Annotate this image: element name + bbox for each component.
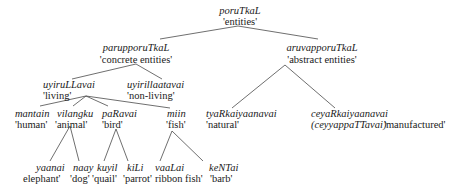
node-gloss: 'natural': [206, 119, 239, 130]
node-term: mantain: [15, 108, 49, 119]
node-manufactured: ceyaRkaiyaanavai (ceyyappaTTavai) 'manuf…: [311, 108, 446, 131]
node-fish: miin 'fish': [166, 108, 186, 130]
node-term: miin: [167, 108, 186, 119]
node-elephant: yaanai elephant': [23, 162, 65, 184]
node-term: kiLi: [127, 162, 143, 173]
edge-concrete-living: [72, 64, 136, 79]
node-gloss: 'non-living': [127, 90, 175, 101]
node-root: poruTkaL 'entities': [218, 5, 261, 27]
node-dog: naay 'dog': [70, 162, 94, 184]
edge-animal-dog: [70, 126, 79, 161]
node-term: vaaLai: [155, 162, 184, 173]
node-gloss: 'quail': [92, 173, 117, 184]
edge-abstract-natural: [232, 65, 285, 108]
node-gloss: 'entities': [223, 16, 257, 27]
edge-fish-barb: [172, 131, 203, 161]
node-term: parupporuTkaL: [102, 42, 170, 53]
node-term: poruTkaL: [218, 5, 261, 16]
node-gloss: ribbon fish': [155, 173, 203, 184]
node-ribbonfish: vaaLai ribbon fish': [155, 162, 203, 184]
edge-bird-quail: [104, 129, 116, 161]
node-term: naay: [73, 162, 94, 173]
node-term: kuyil: [97, 162, 117, 173]
node-quail: kuyil 'quail': [92, 162, 117, 184]
node-bird: paRavai 'bird': [101, 108, 137, 130]
edge-bird-parrot: [116, 129, 128, 161]
node-gloss: 'manufactured': [384, 119, 446, 130]
edge-root-concrete: [160, 26, 238, 39]
node-term: uyirillaatavai: [127, 79, 184, 90]
node-gloss: 'concrete entities': [100, 54, 172, 65]
node-gloss: 'fish': [166, 119, 186, 130]
node-gloss: 'dog': [70, 173, 90, 184]
node-gloss: 'animal': [55, 119, 87, 130]
node-term: keNTai: [209, 162, 238, 173]
taxonomy-tree: poruTkaL 'entities' parupporuTkaL 'concr…: [0, 0, 469, 195]
node-term: tyaRkaiyaanavai: [206, 108, 277, 119]
node-concrete: parupporuTkaL 'concrete entities': [100, 42, 172, 65]
node-gloss: 'barb': [210, 173, 233, 184]
node-term: uyiruLLavai: [43, 79, 95, 90]
node-term: vilangku: [57, 108, 93, 119]
edge-animal-elephant: [50, 126, 70, 161]
edge-abstract-manufactured: [285, 65, 335, 108]
node-natural: tyaRkaiyaanavai 'natural': [206, 108, 277, 130]
node-nonliving: uyirillaatavai 'non-living': [127, 79, 184, 101]
node-animal: vilangku 'animal': [55, 108, 93, 130]
node-term: ceyaRkaiyaanavai: [311, 108, 388, 119]
node-human: mantain 'human': [15, 108, 49, 130]
edge-concrete-nonliving: [136, 64, 162, 79]
node-term: aruvapporuTkaL: [286, 42, 357, 53]
node-parrot: kiLi 'parrot': [123, 162, 152, 184]
node-gloss: 'living': [43, 90, 71, 101]
node-gloss: elephant': [23, 173, 61, 184]
node-abstract: aruvapporuTkaL 'abstract entities': [286, 42, 357, 65]
node-gloss: 'abstract entities': [287, 54, 356, 65]
node-living: uyiruLLavai 'living': [43, 79, 95, 101]
node-barb: keNTai 'barb': [209, 162, 238, 184]
node-term: yaanai: [35, 162, 65, 173]
node-gloss: 'human': [15, 119, 47, 130]
node-term-alt: (ceyyappaTTavai): [311, 119, 387, 131]
node-gloss: 'bird': [102, 119, 123, 130]
node-gloss: 'parrot': [123, 173, 152, 184]
node-term: paRavai: [101, 108, 137, 119]
edge-root-abstract: [238, 26, 318, 39]
edge-fish-ribbonfish: [160, 131, 172, 161]
